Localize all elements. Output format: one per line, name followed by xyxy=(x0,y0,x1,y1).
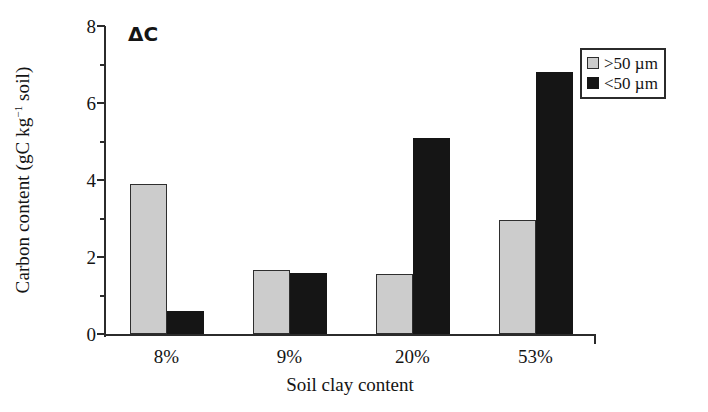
y-axis-title-superscript: −1 xyxy=(12,106,24,118)
y-axis-tick-label: 6 xyxy=(70,94,96,113)
legend-swatch-gray xyxy=(587,57,599,69)
y-axis-tick-major xyxy=(97,256,105,258)
legend: >50 µm<50 µm xyxy=(580,48,666,99)
y-axis-tick-minor xyxy=(100,295,105,297)
y-axis-line xyxy=(104,26,106,337)
y-axis-title-post: soil) xyxy=(12,67,33,106)
bar-53pct-series1 xyxy=(499,220,536,334)
y-axis-tick-major xyxy=(97,333,105,335)
legend-item-1: >50 µm xyxy=(587,53,658,73)
delta-c-annotation: ΔC xyxy=(128,22,158,46)
y-axis-tick-major xyxy=(97,25,105,27)
legend-item-2: <50 µm xyxy=(587,73,658,93)
y-axis-tick-label: 2 xyxy=(70,248,96,267)
bar-20pct-series2 xyxy=(413,138,450,334)
bar-8pct-series2 xyxy=(167,311,204,334)
x-axis-end-tick xyxy=(594,335,596,344)
bar-9pct-series1 xyxy=(253,270,290,334)
x-axis-title: Soil clay content xyxy=(104,374,596,396)
plot-area: ΔC xyxy=(104,26,596,336)
y-axis-tick-minor xyxy=(100,141,105,143)
y-axis-tick-label: 0 xyxy=(70,325,96,344)
y-axis-tick-major xyxy=(97,179,105,181)
y-axis-title-container: Carbon content (gC kg−1 soil) xyxy=(0,0,46,360)
y-axis-tick-major xyxy=(97,102,105,104)
bar-53pct-series2 xyxy=(536,72,573,334)
x-axis-tick-label: 8% xyxy=(122,346,212,368)
y-axis-tick-labels: 02468 xyxy=(60,0,96,412)
legend-swatch-black xyxy=(587,77,599,89)
y-axis-tick-label: 8 xyxy=(70,17,96,36)
y-axis-tick-minor xyxy=(100,64,105,66)
legend-label: <50 µm xyxy=(604,75,658,92)
x-axis-line xyxy=(104,334,596,336)
chart-figure: Carbon content (gC kg−1 soil) 02468 ΔC >… xyxy=(0,0,708,412)
x-axis-tick-label: 53% xyxy=(491,346,581,368)
legend-label: >50 µm xyxy=(604,55,658,72)
y-axis-tick-label: 4 xyxy=(70,171,96,190)
y-axis-tick-minor xyxy=(100,218,105,220)
bar-8pct-series1 xyxy=(130,184,167,334)
x-axis-tick-label: 9% xyxy=(245,346,335,368)
x-axis-tick-label: 20% xyxy=(368,346,458,368)
bar-9pct-series2 xyxy=(290,273,327,334)
bar-20pct-series1 xyxy=(376,274,413,334)
y-axis-title: Carbon content (gC kg−1 soil) xyxy=(12,67,34,294)
y-axis-title-pre: Carbon content (gC kg xyxy=(12,118,33,294)
